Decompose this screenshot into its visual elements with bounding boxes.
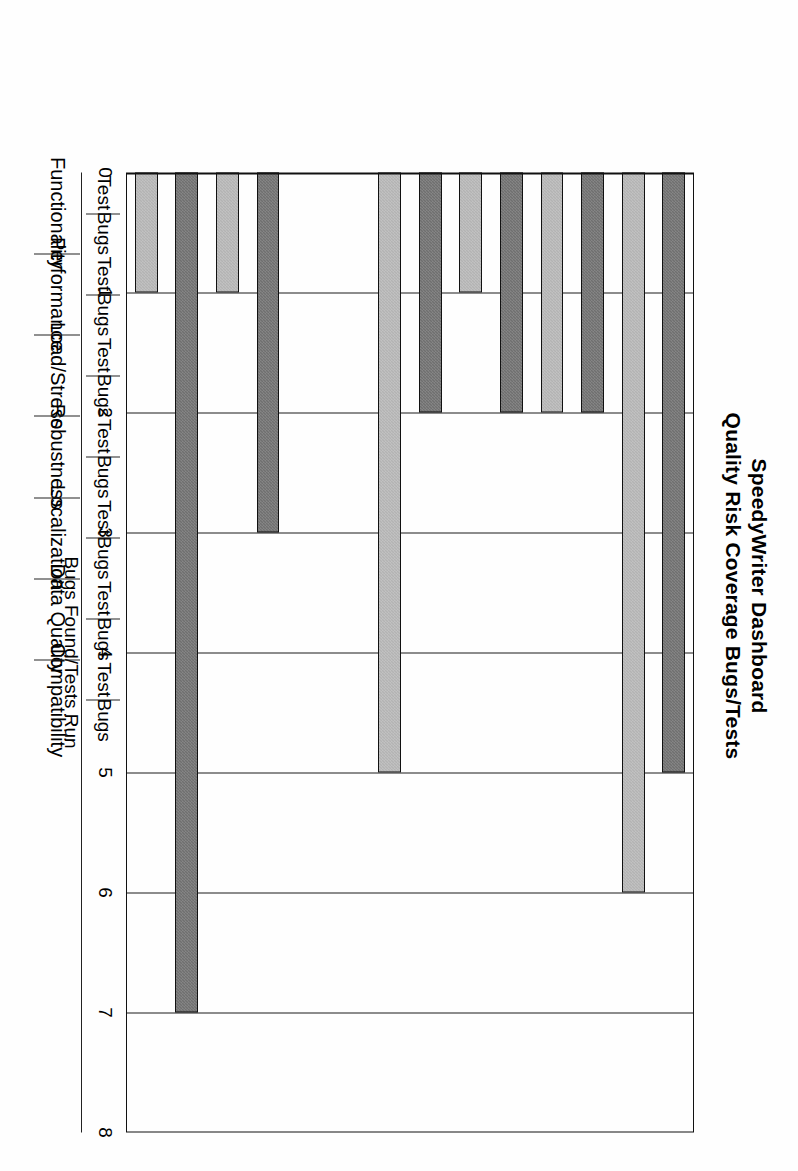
sublabel-functionality-bugs: Bugs: [84, 213, 124, 254]
sublabel-separator: [86, 213, 120, 214]
sublabel-load-stress-test: Test: [84, 334, 124, 375]
sublabel-robustness-bugs: Bugs: [84, 456, 124, 497]
sublabel-performance-test: Test: [84, 253, 124, 294]
sublabel-functionality-test: Test: [84, 172, 124, 213]
chart-title: SpeedyWriter Dashboard Quality Risk Cove…: [720, 0, 772, 1171]
sublabel-data-quality-bugs: Bugs: [84, 618, 124, 659]
sublabel-compatibility-test: Test: [84, 659, 124, 700]
category-label-compatibility: Compatibility: [36, 659, 80, 740]
sublabel-separator: [86, 375, 120, 376]
category-separator: [34, 253, 80, 254]
sublabel-separator: [86, 294, 120, 295]
category-separator: [34, 578, 80, 579]
plot-frame: [126, 172, 694, 1132]
category-separator: [34, 334, 80, 335]
category-separator: [34, 415, 80, 416]
category-separator: [34, 497, 80, 498]
chart-title-line-2: Quality Risk Coverage Bugs/Tests: [720, 0, 746, 1171]
sublabel-separator: [86, 456, 120, 457]
plot-area: [126, 172, 694, 1132]
sublabel-separator: [86, 537, 120, 538]
sublabel-load-stress-bugs: Bugs: [84, 375, 124, 416]
sublabel-performance-bugs: Bugs: [84, 294, 124, 335]
category-separator: [34, 659, 80, 660]
chart-figure: SpeedyWriter Dashboard Quality Risk Cove…: [0, 0, 798, 1171]
category-axis: TestBugsFunctionalityTestBugsPerformance…: [0, 172, 126, 1132]
sublabel-localization-test: Test: [84, 497, 124, 538]
category-axis-rule: [81, 172, 82, 1132]
sublabel-compatibility-bugs: Bugs: [84, 699, 124, 740]
sublabel-separator: [86, 618, 120, 619]
sublabel-localization-bugs: Bugs: [84, 537, 124, 578]
chart-title-line-1: SpeedyWriter Dashboard: [746, 0, 772, 1171]
sublabel-data-quality-test: Test: [84, 578, 124, 619]
sublabel-separator: [86, 699, 120, 700]
sublabel-robustness-test: Test: [84, 415, 124, 456]
